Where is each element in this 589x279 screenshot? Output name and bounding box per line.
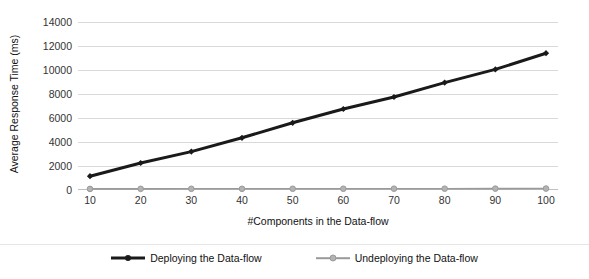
x-axis-tick-label: 100 — [526, 194, 566, 206]
series-lines — [78, 22, 558, 190]
legend-item[interactable]: Deploying the Data-flow — [111, 252, 261, 264]
x-axis-tick-label: 90 — [475, 194, 515, 206]
series-line — [90, 53, 546, 176]
y-axis-tick-label: 14000 — [26, 16, 72, 28]
y-axis-tick-label: 10000 — [26, 64, 72, 76]
x-axis-tick-label: 60 — [323, 194, 363, 206]
data-point-marker — [543, 186, 549, 192]
y-axis-tick-label: 6000 — [26, 112, 72, 124]
y-axis-tick-label: 12000 — [26, 40, 72, 52]
x-axis-tick-label: 20 — [121, 194, 161, 206]
legend-label: Deploying the Data-flow — [150, 252, 261, 264]
data-point-marker — [138, 186, 144, 192]
chart-container: Average Response Time (ms) 0200040006000… — [0, 0, 589, 279]
x-axis-tick-label: 40 — [222, 194, 262, 206]
legend-item[interactable]: Undeploying the Data-flow — [316, 252, 478, 264]
data-point-marker — [87, 186, 93, 192]
data-point-marker — [442, 186, 448, 192]
y-axis-tick-label: 2000 — [26, 160, 72, 172]
y-axis-tick-label: 8000 — [26, 88, 72, 100]
data-point-marker — [341, 186, 347, 192]
data-point-marker — [138, 160, 144, 166]
y-axis-tick-label: 0 — [26, 184, 72, 196]
x-axis-tick-label: 80 — [425, 194, 465, 206]
data-point-marker — [188, 149, 194, 155]
data-point-marker — [340, 106, 346, 112]
legend-label: Undeploying the Data-flow — [355, 252, 478, 264]
y-axis-tick-label: 4000 — [26, 136, 72, 148]
data-point-marker — [391, 186, 397, 192]
x-axis-tick-label: 10 — [70, 194, 110, 206]
x-axis-tick-label: 50 — [273, 194, 313, 206]
data-point-marker — [290, 186, 296, 192]
data-point-marker — [493, 186, 499, 192]
y-axis-title: Average Response Time (ms) — [8, 14, 20, 194]
legend-swatch-icon — [316, 253, 350, 263]
legend-swatch-icon — [111, 253, 145, 263]
data-point-marker — [87, 173, 93, 179]
x-axis-tick-label: 70 — [374, 194, 414, 206]
data-point-marker — [189, 186, 195, 192]
chart-legend: Deploying the Data-flowUndeploying the D… — [0, 252, 589, 264]
legend-divider — [0, 244, 589, 245]
data-point-marker — [239, 186, 245, 192]
plot-area: 02000400060008000100001200014000 1020304… — [78, 22, 558, 190]
x-axis-tick-label: 30 — [171, 194, 211, 206]
x-axis-title: #Components in the Data-flow — [78, 215, 558, 227]
chart-title — [190, 0, 390, 3]
